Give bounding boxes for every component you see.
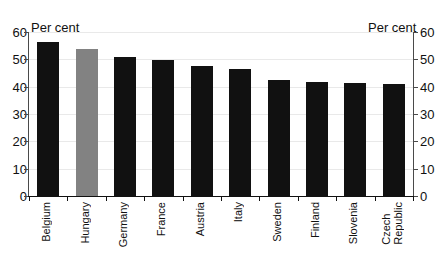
x-axis-label-sweden: Sweden — [272, 202, 286, 242]
x-axis-label-hungary: Hungary — [80, 202, 94, 244]
y-axis-tick-mark — [24, 196, 28, 197]
y-axis-tick-label-right: 0 — [420, 190, 444, 203]
x-axis-tick-mark — [375, 197, 376, 201]
y-axis-tick-label-right: 30 — [420, 108, 444, 121]
bar-belgium — [37, 42, 59, 196]
x-axis-label-austria: Austria — [195, 202, 209, 236]
bar-italy — [229, 69, 251, 196]
y-axis-tick-mark — [24, 141, 28, 142]
y-axis-tick-label-right: 40 — [420, 81, 444, 94]
x-axis-label-france: France — [156, 202, 170, 236]
y-axis-tick-label-right: 10 — [420, 163, 444, 176]
y-axis-tick-mark — [414, 169, 418, 170]
y-axis-tick-mark — [414, 196, 418, 197]
y-axis-tick-mark — [414, 141, 418, 142]
x-axis-tick-mark — [259, 197, 260, 201]
x-axis-tick-mark — [106, 197, 107, 201]
x-axis-tick-mark — [29, 197, 30, 201]
bar-sweden — [268, 80, 290, 196]
x-axis-tick-mark — [221, 197, 222, 201]
x-axis-label-germany: Germany — [118, 202, 132, 247]
x-axis-label-belgium: Belgium — [41, 202, 55, 242]
y-axis-tick-mark — [24, 59, 28, 60]
x-axis-tick-mark — [298, 197, 299, 201]
x-axis-tick-mark — [183, 197, 184, 201]
y-axis-tick-mark — [24, 114, 28, 115]
x-axis-tick-mark — [336, 197, 337, 201]
y-axis-tick-mark — [414, 87, 418, 88]
y-axis-tick-mark — [24, 169, 28, 170]
bar-germany — [114, 57, 136, 196]
y-axis-tick-label-right: 60 — [420, 26, 444, 39]
y-axis-tick-mark — [414, 59, 418, 60]
bar-slovenia — [344, 83, 366, 196]
x-axis-label-czech-republic: CzechRepublic — [381, 202, 407, 245]
x-axis-label-finland: Finland — [310, 202, 324, 238]
y-axis-tick-mark — [414, 114, 418, 115]
bar-austria — [191, 66, 213, 196]
bar-france — [152, 60, 174, 196]
bar-chart: Per cent Per cent 6060505040403030202010… — [0, 0, 446, 265]
y-axis-tick-mark — [24, 87, 28, 88]
y-axis-tick-mark — [24, 32, 28, 33]
x-axis-tick-mark — [144, 197, 145, 201]
y-axis-tick-mark — [414, 32, 418, 33]
plot-area — [29, 32, 413, 196]
bar-finland — [306, 82, 328, 196]
x-axis-tick-mark — [67, 197, 68, 201]
x-axis-label-slovenia: Slovenia — [348, 202, 362, 244]
bar-czech-republic — [383, 84, 405, 196]
x-axis-tick-mark — [413, 197, 414, 201]
y-axis-tick-label-right: 50 — [420, 53, 444, 66]
x-axis-label-italy: Italy — [233, 202, 247, 222]
y-axis-tick-label-right: 20 — [420, 135, 444, 148]
bar-hungary — [76, 49, 98, 196]
